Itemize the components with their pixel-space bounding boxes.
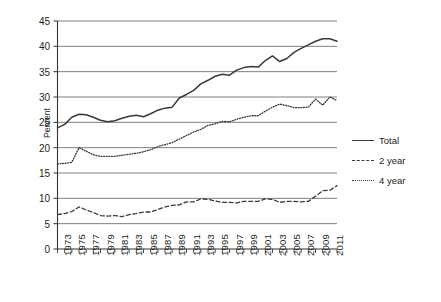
x-tick-label-1983: 1983 xyxy=(133,234,144,256)
legend-item-2-year[interactable]: 2 year xyxy=(352,155,405,166)
x-tick-label-1989: 1989 xyxy=(176,234,187,256)
x-tick-label-1981: 1981 xyxy=(119,234,130,256)
x-tick-label-1977: 1977 xyxy=(90,234,101,256)
chart-container: Percent 051015202530354045 1973197519771… xyxy=(0,0,441,302)
x-tick-label-1995: 1995 xyxy=(219,234,230,256)
x-tick-label-1987: 1987 xyxy=(162,234,173,256)
x-tick-label-1999: 1999 xyxy=(248,234,259,256)
x-tick-label-2007: 2007 xyxy=(305,234,316,256)
x-tick-label-2011: 2011 xyxy=(334,235,345,256)
x-tick-label-1975: 1975 xyxy=(76,234,87,256)
legend-item-total[interactable]: Total xyxy=(352,135,399,146)
x-tick-label-1985: 1985 xyxy=(148,234,159,256)
x-tick-label-2009: 2009 xyxy=(320,234,331,256)
x-tick-label-2005: 2005 xyxy=(291,234,302,256)
legend-label-2-year: 2 year xyxy=(379,155,405,166)
x-tick-label-1973: 1973 xyxy=(62,234,73,256)
legend-swatch-4-year-icon xyxy=(352,177,374,185)
legend-item-4-year[interactable]: 4 year xyxy=(352,175,405,186)
x-tick-label-1979: 1979 xyxy=(105,234,116,256)
x-tick-label-1997: 1997 xyxy=(234,234,245,256)
x-axis-tick-labels: 1973197519771979198119831985198719891991… xyxy=(0,0,441,302)
x-tick-label-2003: 2003 xyxy=(277,234,288,256)
legend-label-4-year: 4 year xyxy=(379,175,405,186)
legend-swatch-2-year-icon xyxy=(352,157,374,165)
x-tick-label-1991: 1991 xyxy=(191,234,202,256)
x-tick-label-1993: 1993 xyxy=(205,234,216,256)
x-tick-label-2001: 2001 xyxy=(262,234,273,256)
legend-label-total: Total xyxy=(379,135,399,146)
legend-swatch-total-icon xyxy=(352,137,374,145)
